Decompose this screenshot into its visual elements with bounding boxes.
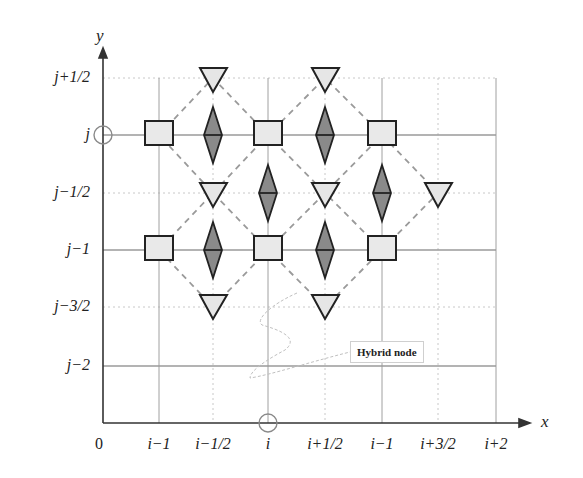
y-tick-label: j−3/2 bbox=[0, 297, 90, 315]
staggered-grid-diagram: y x j+1/2 j j−1/2 j−1 j−3/2 j−2 0 i−1 i−… bbox=[0, 0, 583, 478]
x-tick-label: i+1/2 bbox=[307, 435, 343, 453]
x-tick-label: i−1 bbox=[370, 435, 393, 453]
y-tick-label: j−2 bbox=[0, 356, 90, 374]
y-axis-arrow-icon bbox=[99, 48, 107, 58]
x-tick-label: i+3/2 bbox=[420, 435, 456, 453]
x-tick-label: i−1/2 bbox=[195, 435, 231, 453]
y-tick-label: j−1 bbox=[0, 240, 90, 258]
x-tick-label: 0 bbox=[95, 435, 103, 453]
y-axis-name: y bbox=[96, 26, 104, 46]
y-tick-label: j−1/2 bbox=[0, 183, 90, 201]
y-tick-label: j bbox=[0, 125, 90, 143]
diamond-nodes bbox=[204, 107, 391, 278]
hybrid-node-callout: Hybrid node bbox=[350, 341, 424, 363]
x-tick-label: i bbox=[266, 435, 270, 453]
y-tick-label: j+1/2 bbox=[0, 68, 90, 86]
x-axis-name: x bbox=[541, 412, 549, 432]
x-axis-arrow-icon bbox=[519, 419, 530, 427]
x-tick-label: i+2 bbox=[484, 435, 507, 453]
x-tick-label: i−1 bbox=[147, 435, 170, 453]
